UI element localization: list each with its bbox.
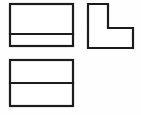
right-side-view-l-shape-outline [88, 4, 133, 48]
front-view-group [10, 60, 73, 106]
top-view-outline [10, 4, 73, 46]
orthographic-views-canvas [0, 0, 141, 115]
technical-drawing-sheet [0, 0, 141, 115]
top-view-group [10, 4, 73, 46]
right-side-view-group [88, 4, 133, 48]
